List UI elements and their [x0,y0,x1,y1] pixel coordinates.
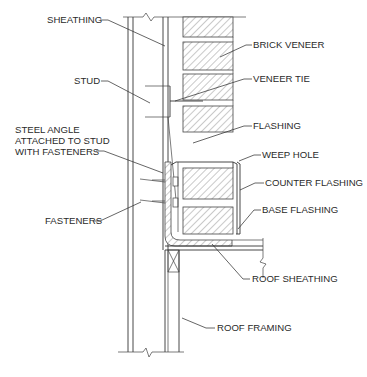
label-base-flashing: BASE FLASHING [262,204,338,215]
label-steel-angle-2: ATTACHED TO STUD [15,135,110,146]
label-veneer-tie: VENEER TIE [253,73,310,84]
roof-framing [165,250,179,352]
label-brick-veneer: BRICK VENEER [253,39,325,50]
label-counter-flashing: COUNTER FLASHING [265,177,363,188]
stud-wall [128,17,168,352]
label-fasteners: FASTENERS [45,215,102,226]
label-steel-angle-3: WITH FASTENERS [15,146,99,157]
label-sheathing: SHEATHING [47,14,102,25]
label-roof-framing: ROOF FRAMING [217,322,292,333]
label-weep-hole: WEEP HOLE [262,149,319,160]
label-flashing: FLASHING [253,120,301,131]
label-steel-angle-1: STEEL ANGLE [15,124,80,135]
leader-lines [93,20,264,328]
wall-section-diagram: SHEATHING BRICK VENEER STUD VENEER TIE F… [0,0,367,377]
brick-veneer [183,17,233,234]
label-stud: STUD [74,75,100,86]
label-roof-sheathing: ROOF SHEATHING [252,273,338,284]
